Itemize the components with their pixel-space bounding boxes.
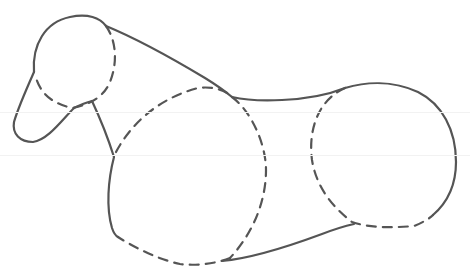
jaw-line [74, 101, 92, 108]
front-body-left-outline [108, 157, 118, 237]
front-body-dashed-right [230, 97, 266, 258]
neck-top-line [106, 26, 232, 97]
head-outline [34, 16, 106, 72]
neck-front-line [92, 101, 114, 157]
sketch-canvas [0, 0, 470, 268]
paper-line [0, 112, 470, 113]
paper-line [0, 155, 470, 156]
head-dashed-arc [35, 26, 115, 108]
rear-body-outline [345, 83, 456, 215]
horse-sketch [0, 0, 470, 268]
front-body-dashed-top [116, 87, 232, 152]
rear-body-dashed-arc [311, 88, 433, 227]
front-body-dashed-bottom [118, 237, 230, 265]
